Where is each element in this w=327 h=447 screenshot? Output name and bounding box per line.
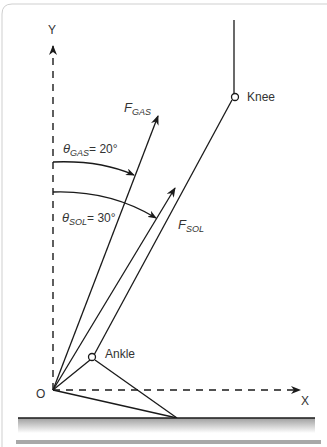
f-sol-label: FSOL <box>178 217 204 234</box>
theta-gas-subscript: GAS <box>70 148 89 158</box>
knee-label: Knee <box>247 90 275 104</box>
ankle-joint <box>89 354 96 361</box>
ground-shade <box>18 418 315 433</box>
f-gas-subscript: GAS <box>132 107 151 117</box>
theta-gas-arc <box>53 162 134 175</box>
heel-to-toe <box>53 390 177 418</box>
theta-sol-subscript: SOL <box>69 217 87 227</box>
theta-gas-symbol: θ <box>63 141 70 156</box>
theta-sol-symbol: θ <box>62 210 69 225</box>
bottom-bar <box>16 440 321 444</box>
theta-sol-label: θSOL= 30° <box>62 210 116 227</box>
origin-label: O <box>36 387 45 401</box>
f-gas-label: FGAS <box>124 100 151 117</box>
theta-gas-label: θGAS= 20° <box>63 141 118 158</box>
x-axis-label: X <box>301 394 309 408</box>
ankle-label: Ankle <box>105 347 135 361</box>
f-sol-subscript: SOL <box>186 224 204 234</box>
y-axis-label: Y <box>48 23 56 37</box>
knee-joint <box>232 94 239 101</box>
theta-sol-value: = 30° <box>87 211 116 225</box>
theta-gas-value: = 20° <box>89 142 118 156</box>
ankle-force-diagram: Y X O Knee Ankle FGAS FSOL θGAS= 20° θSO… <box>0 0 327 447</box>
